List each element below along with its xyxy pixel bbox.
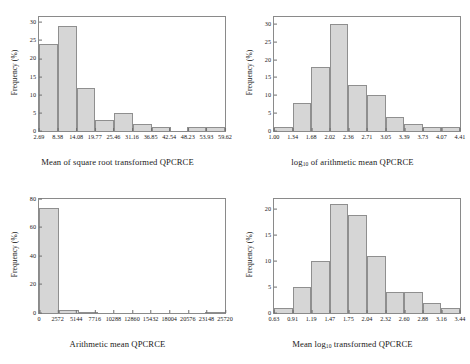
x-tick-label: 15432 — [143, 313, 158, 322]
bar — [330, 204, 349, 313]
x-tick-mark — [225, 310, 226, 313]
y-tick-label: 25 — [30, 37, 39, 43]
bar — [386, 117, 405, 131]
y-axis-label: Frequency (%) — [10, 37, 19, 109]
x-tick-label: 8.38 — [52, 131, 63, 140]
plot-area: 05101520 0.630.911.191.471.752.042.322.6… — [273, 198, 461, 314]
x-tick-mark — [348, 128, 349, 131]
x-tick-label: 3.05 — [380, 131, 391, 140]
x-tick-mark — [441, 128, 442, 131]
x-tick-mark — [330, 310, 331, 313]
x-tick-label: 31.16 — [125, 131, 139, 140]
y-tick-mark — [39, 198, 42, 199]
y-tick-mark — [274, 209, 277, 210]
y-tick-label: 20 — [30, 281, 39, 287]
x-tick-mark — [76, 310, 77, 313]
panel-bottom-left: 020406080 025725144771610288128601543218… — [0, 182, 235, 364]
x-tick-label: 10288 — [106, 313, 121, 322]
bar — [423, 303, 442, 313]
y-tick-mark — [39, 76, 42, 77]
x-tick-label: 0 — [37, 313, 40, 322]
x-tick-mark — [293, 310, 294, 313]
bar — [311, 67, 330, 131]
x-tick-mark — [151, 128, 152, 131]
x-tick-label: 14.08 — [69, 131, 83, 140]
x-tick-mark — [330, 128, 331, 131]
x-tick-label: 48.23 — [181, 131, 195, 140]
y-axis-label: Frequency (%) — [245, 219, 254, 291]
x-tick-mark — [95, 310, 96, 313]
x-tick-label: 2.71 — [362, 131, 373, 140]
y-tick-label: 30 — [30, 19, 39, 25]
y-tick-mark — [274, 41, 277, 42]
bar — [330, 24, 349, 131]
x-tick-label: 3.39 — [399, 131, 410, 140]
y-tick-label: 40 — [30, 253, 39, 259]
y-tick-label: 5 — [268, 284, 274, 290]
x-tick-label: 3.44 — [455, 313, 466, 322]
x-axis-label: Arithmetic mean QPCRCE — [0, 339, 235, 349]
bar — [367, 95, 386, 131]
x-tick-label: 3.73 — [417, 131, 428, 140]
x-tick-label: 42.54 — [162, 131, 176, 140]
x-tick-mark — [225, 128, 226, 131]
y-tick-label: 25 — [265, 39, 274, 45]
bar — [386, 292, 405, 313]
plot-area: 051015202530 2.698.3814.0819.7725.4631.1… — [38, 16, 226, 132]
y-tick-label: 20 — [30, 56, 39, 62]
x-tick-mark — [404, 128, 405, 131]
y-tick-label: 15 — [30, 74, 39, 80]
x-tick-label: 12860 — [124, 313, 139, 322]
y-tick-mark — [39, 22, 42, 23]
bar-series — [274, 17, 460, 131]
panel-bottom-right: 05101520 0.630.911.191.471.752.042.322.6… — [235, 182, 470, 364]
bar — [293, 287, 312, 313]
bar — [95, 120, 114, 131]
y-tick-label: 15 — [265, 74, 274, 80]
y-tick-label: 20 — [265, 206, 274, 212]
plot-area: 051015202530 1.001.341.682.022.362.713.0… — [273, 16, 461, 132]
x-tick-label: 19.77 — [88, 131, 102, 140]
bar — [77, 88, 96, 131]
x-tick-label: 2.04 — [362, 313, 373, 322]
x-tick-mark — [76, 128, 77, 131]
x-tick-mark — [423, 128, 424, 131]
y-axis-label: Frequency (%) — [10, 219, 19, 291]
y-tick-label: 10 — [30, 92, 39, 98]
x-tick-mark — [132, 128, 133, 131]
bar — [404, 124, 423, 131]
x-tick-label: 25720 — [217, 313, 232, 322]
y-tick-mark — [274, 113, 277, 114]
x-tick-mark — [58, 128, 59, 131]
x-tick-mark — [441, 310, 442, 313]
x-tick-mark — [460, 128, 461, 131]
y-tick-mark — [274, 235, 277, 236]
x-tick-label: 2.88 — [417, 313, 428, 322]
y-tick-mark — [39, 227, 42, 228]
bar-series — [39, 199, 225, 313]
x-tick-mark — [293, 128, 294, 131]
x-tick-label: 1.34 — [287, 131, 298, 140]
x-tick-label: 59.62 — [218, 131, 232, 140]
bar — [114, 113, 133, 131]
y-tick-mark — [274, 59, 277, 60]
x-tick-label: 7716 — [89, 313, 101, 322]
x-tick-mark — [404, 310, 405, 313]
y-tick-label: 15 — [265, 232, 274, 238]
x-tick-label: 2.69 — [34, 131, 45, 140]
x-tick-mark — [169, 128, 170, 131]
y-tick-mark — [39, 58, 42, 59]
x-tick-mark — [95, 128, 96, 131]
x-tick-label: 5144 — [70, 313, 82, 322]
x-tick-label: 0.91 — [287, 313, 298, 322]
bar-series — [39, 17, 225, 131]
y-tick-mark — [274, 287, 277, 288]
x-tick-mark — [460, 310, 461, 313]
y-tick-mark — [274, 261, 277, 262]
y-tick-mark — [274, 95, 277, 96]
x-tick-mark — [188, 128, 189, 131]
x-tick-mark — [39, 310, 40, 313]
x-tick-label: 1.75 — [343, 313, 354, 322]
plot-area: 020406080 025725144771610288128601543218… — [38, 198, 226, 314]
x-tick-label: 1.68 — [306, 131, 317, 140]
